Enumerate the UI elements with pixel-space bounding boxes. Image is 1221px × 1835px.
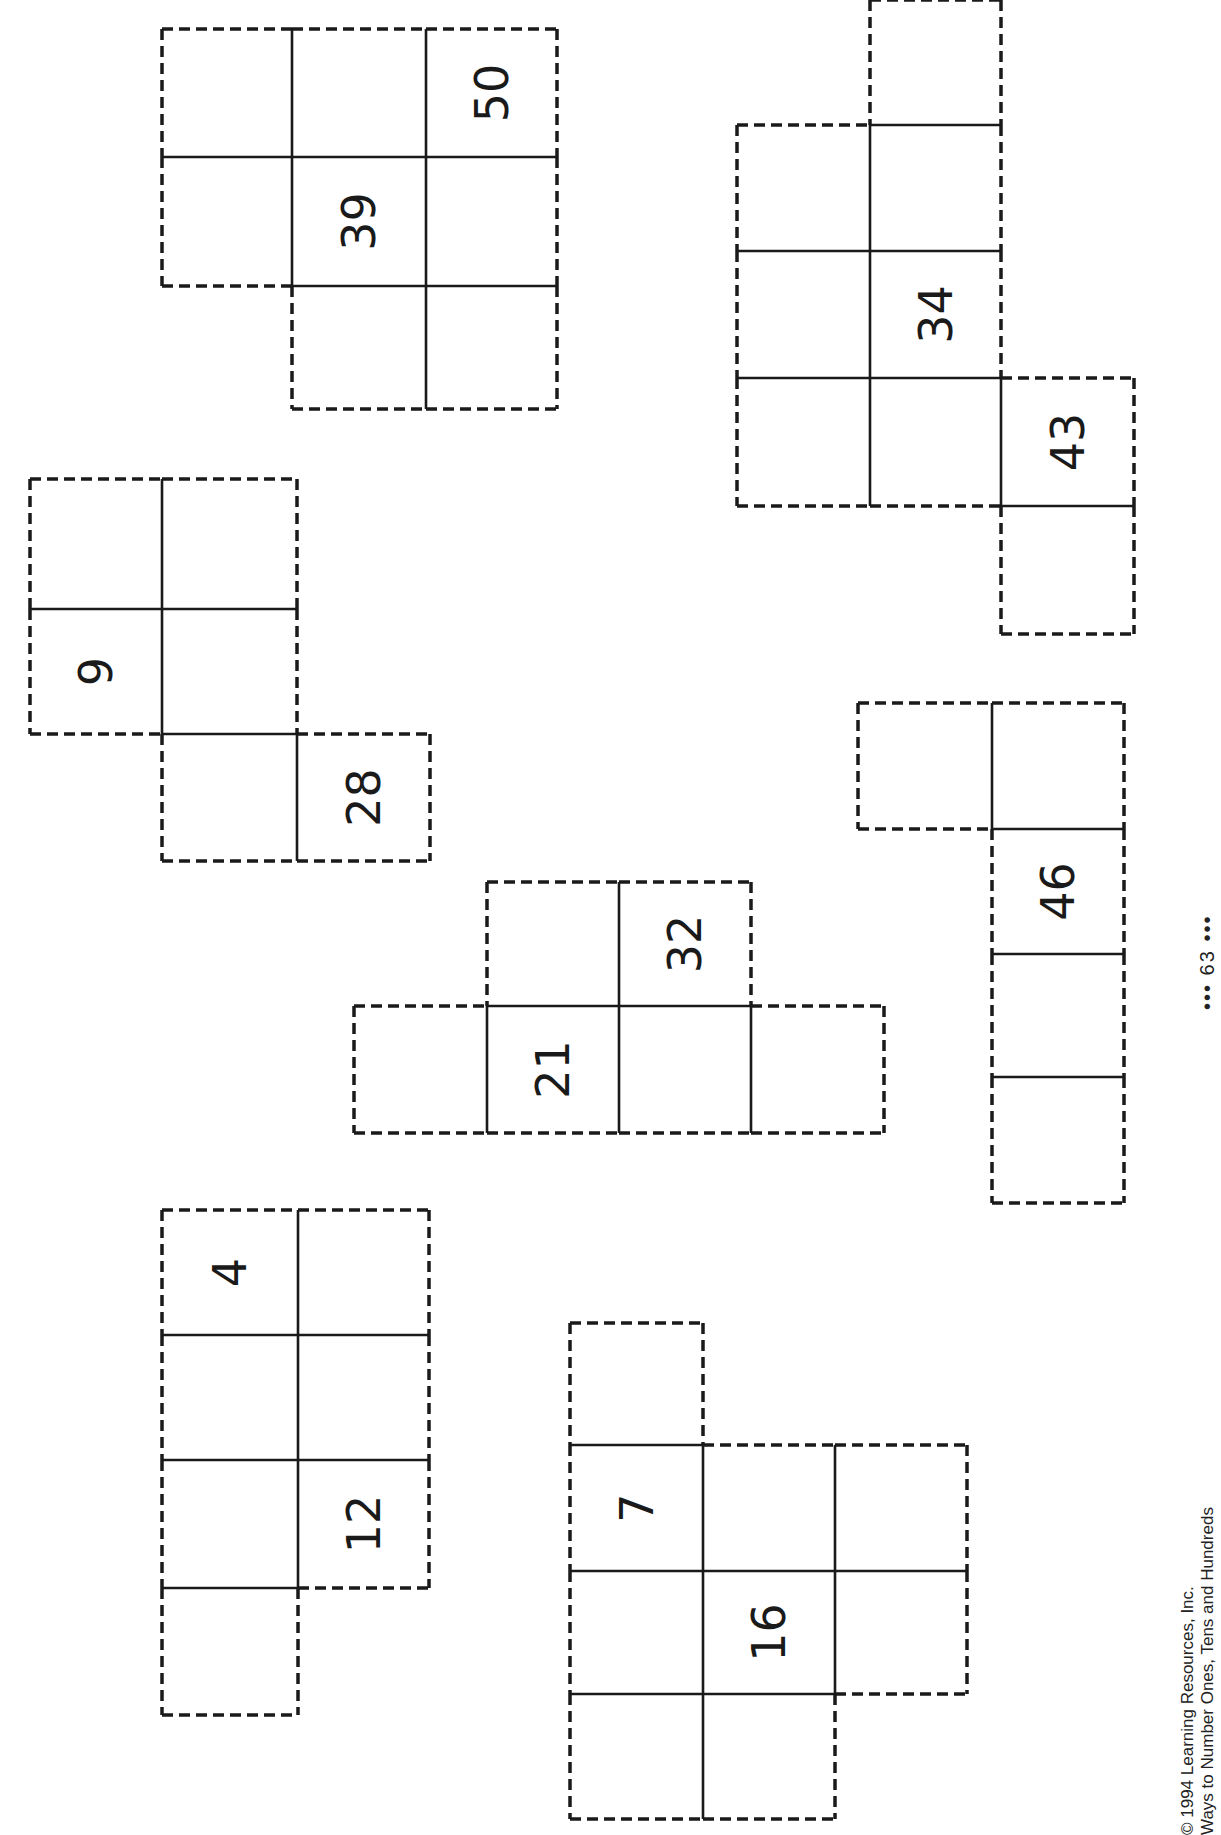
cell-number: 12: [337, 1495, 391, 1554]
blank-cell: [30, 479, 162, 609]
blank-cell: [162, 1588, 298, 1715]
cell-number: 39: [332, 192, 386, 251]
blank-cell: [162, 734, 297, 861]
page-number-value: 63: [1196, 949, 1218, 975]
blank-cell: [870, 378, 1001, 506]
puzzle-piece-shape-34-43: 3443: [737, 0, 1134, 634]
blank-cell: [992, 1077, 1124, 1203]
blank-cell: [162, 609, 297, 734]
cell-number: 43: [1041, 413, 1095, 472]
puzzle-piece-shape-46: 46: [858, 703, 1124, 1203]
blank-cell: [835, 1571, 967, 1694]
blank-cell: [570, 1323, 703, 1445]
blank-cell: [858, 703, 992, 829]
blank-cell: [870, 125, 1001, 251]
puzzle-piece-shape-7-16: 716: [570, 1323, 967, 1819]
blank-cell: [570, 1694, 703, 1819]
copyright-notice: © 1994 Learning Resources, Inc.: [1178, 1586, 1198, 1835]
puzzle-piece-shape-21-32: 3221: [354, 882, 884, 1133]
blank-cell: [162, 29, 292, 157]
blank-cell: [992, 703, 1124, 829]
blank-cell: [737, 125, 870, 251]
book-title: Ways to Number Ones, Tens and Hundreds: [1198, 1507, 1218, 1835]
blank-cell: [737, 378, 870, 506]
cell-number: 50: [465, 64, 519, 123]
puzzle-piece-shape-39-50: 5039: [162, 29, 557, 409]
hundred-chart-puzzle-worksheet: 50399283443322146412716: [0, 0, 1221, 1835]
blank-cell: [737, 251, 870, 378]
blank-cell: [162, 157, 292, 286]
blank-cell: [426, 157, 557, 286]
blank-cell: [992, 954, 1124, 1077]
blank-cell: [426, 286, 557, 409]
blank-cell: [292, 29, 426, 157]
cell-number: 7: [610, 1493, 664, 1522]
cell-number: 9: [69, 657, 123, 686]
blank-cell: [162, 479, 297, 609]
cell-number: 32: [658, 915, 712, 974]
cell-number: 21: [526, 1040, 580, 1099]
blank-cell: [162, 1335, 298, 1460]
blank-cell: [703, 1694, 835, 1819]
page-number-dots-left: •••: [1196, 983, 1218, 1010]
puzzle-piece-shape-4-12: 412: [162, 1210, 429, 1715]
blank-cell: [298, 1210, 429, 1335]
cell-number: 46: [1031, 862, 1085, 921]
cell-number: 34: [909, 285, 963, 344]
page-number-dots-right: •••: [1196, 915, 1218, 942]
cell-number: 4: [203, 1258, 257, 1287]
blank-cell: [703, 1445, 835, 1571]
blank-cell: [570, 1571, 703, 1694]
blank-cell: [298, 1335, 429, 1460]
blank-cell: [487, 882, 619, 1006]
cell-number: 28: [337, 768, 391, 827]
blank-cell: [751, 1006, 884, 1133]
cell-number: 16: [742, 1603, 796, 1662]
blank-cell: [1001, 506, 1134, 634]
puzzle-piece-shape-9-28: 928: [30, 479, 430, 861]
blank-cell: [835, 1445, 967, 1571]
blank-cell: [292, 286, 426, 409]
blank-cell: [619, 1006, 751, 1133]
blank-cell: [870, 0, 1001, 125]
blank-cell: [354, 1006, 487, 1133]
page-number: ••• 63 •••: [1196, 915, 1219, 1010]
blank-cell: [162, 1460, 298, 1588]
